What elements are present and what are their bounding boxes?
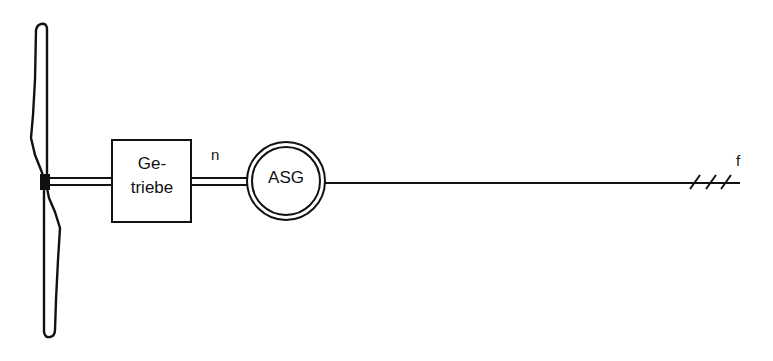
grid-frequency-label: f <box>736 152 740 169</box>
gearbox-label-line1: Ge- <box>112 152 192 176</box>
low-speed-shaft <box>50 178 112 185</box>
three-phase-hash-icon <box>690 175 731 189</box>
gearbox-label: Ge- triebe <box>112 152 192 200</box>
gearbox-label-line2: triebe <box>112 176 192 200</box>
hub-icon <box>40 174 50 190</box>
generator-label: ASG <box>247 168 325 188</box>
shaft-speed-label: n <box>211 146 219 163</box>
high-speed-shaft <box>191 178 250 185</box>
